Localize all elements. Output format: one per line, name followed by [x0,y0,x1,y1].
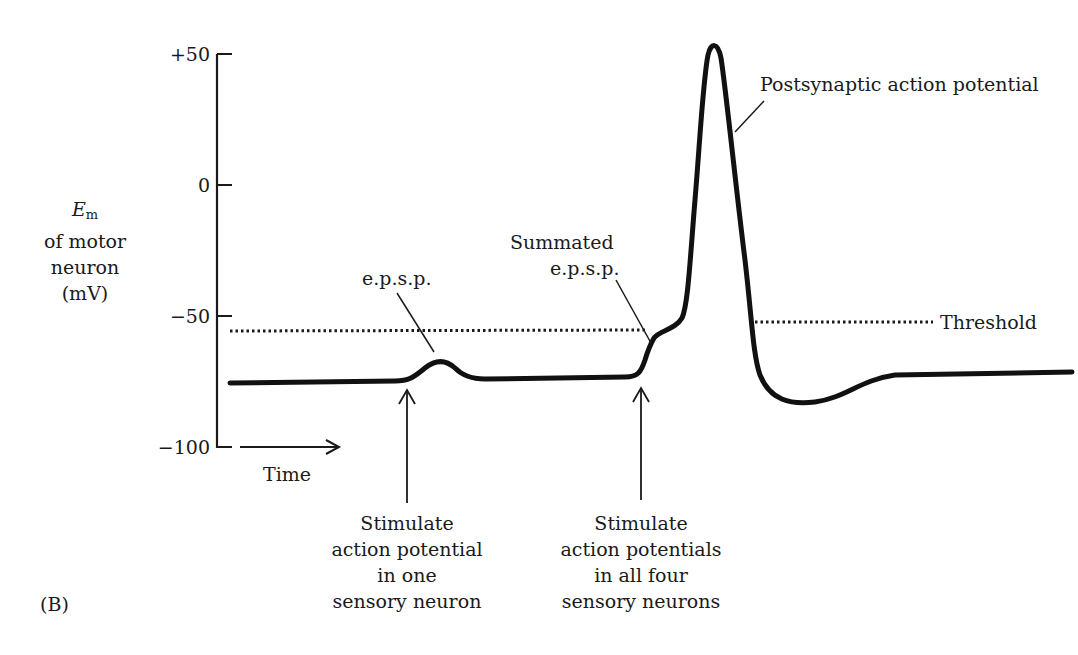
caption-line: Stimulate [541,510,741,536]
y-tick-label-50: +50 [158,42,210,66]
postsynaptic-leader-line [735,101,764,132]
caption-line: in one [317,562,497,588]
summated-epsp-label-line1: Summated [510,230,614,254]
y-label-subscript: m [86,207,98,222]
membrane-potential-trace [230,46,1072,403]
stimulus-all-arrow-icon [633,388,649,500]
y-label-line: (mV) [20,280,150,306]
y-label-line: of motor [20,228,150,254]
summated-epsp-leader-line [616,280,651,343]
y-tick-label-0: 0 [158,173,210,197]
caption-line: sensory neuron [317,588,497,614]
caption-line: in all four [541,562,741,588]
y-tick-label-minus50: −50 [158,304,210,328]
y-label-line: neuron [20,254,150,280]
caption-line: Stimulate [317,510,497,536]
panel-label: (B) [40,592,69,616]
threshold-label: Threshold [940,310,1037,334]
y-axis-label: Em of motor neuron (mV) [20,196,150,306]
caption-line: sensory neurons [541,588,741,614]
stimulate-all-caption: Stimulate action potentials in all four … [541,510,741,614]
postsynaptic-ap-label: Postsynaptic action potential [760,72,1039,96]
stimulate-one-caption: Stimulate action potential in one sensor… [317,510,497,614]
x-axis-label: Time [263,462,311,486]
epsp-leader-line [397,293,434,352]
summated-epsp-label-line2: e.p.s.p. [550,256,619,280]
caption-line: action potentials [541,536,741,562]
y-label-symbol: E [72,198,86,220]
threshold-line-left [230,330,645,331]
caption-line: action potential [317,536,497,562]
epsp-label: e.p.s.p. [362,266,431,290]
time-arrow-icon [240,440,339,454]
stimulus-one-arrow-icon [399,390,415,503]
y-tick-label-minus100: −100 [140,435,210,459]
